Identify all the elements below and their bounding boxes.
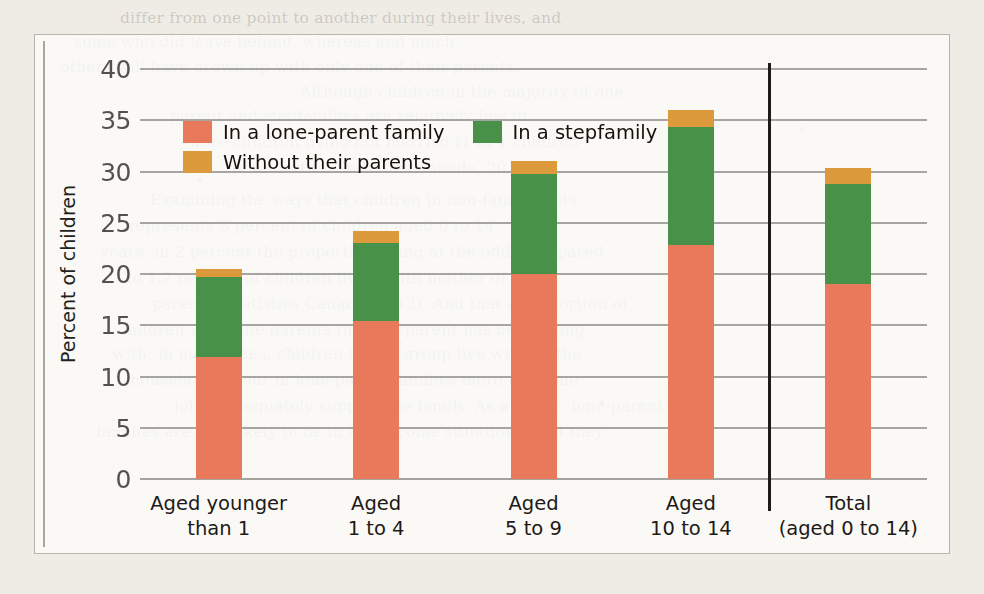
y-axis-tick-label: 35 — [100, 106, 131, 135]
x-axis-category-label: Aged youngerthan 1 — [150, 491, 287, 541]
x-axis-category-label: Aged10 to 14 — [650, 491, 732, 541]
y-axis-tick-label: 40 — [100, 55, 131, 84]
legend-swatch-stepfamily — [473, 121, 502, 143]
bar-segment[interactable] — [353, 231, 399, 243]
total-separator-rule — [768, 63, 771, 511]
bar-segment[interactable] — [825, 184, 871, 284]
legend-swatch-lone-parent — [183, 121, 212, 143]
bar-segment[interactable] — [196, 269, 242, 277]
y-axis-tick-label: 30 — [100, 157, 131, 186]
figure-left-rule — [43, 41, 45, 547]
stacked-bar[interactable] — [196, 269, 242, 479]
y-axis-tick-label: 5 — [116, 413, 131, 442]
legend-label: Without their parents — [223, 151, 431, 174]
x-axis-label-line: Aged — [348, 491, 405, 516]
x-axis-category-label: Total(aged 0 to 14) — [779, 491, 918, 541]
bar-segment[interactable] — [511, 274, 557, 479]
chart-legend: In a lone-parent familyIn a stepfamilyWi… — [183, 117, 685, 177]
x-axis-label-line: 10 to 14 — [650, 516, 732, 541]
x-axis-label-line: Aged — [650, 491, 732, 516]
stacked-bar[interactable] — [511, 161, 557, 479]
y-axis-tick-label: 0 — [116, 465, 131, 494]
bar-segment[interactable] — [668, 245, 714, 479]
bar-slot: Total(aged 0 to 14) — [770, 69, 927, 479]
x-axis-label-line: 1 to 4 — [348, 516, 405, 541]
y-axis-tick-label: 10 — [100, 362, 131, 391]
legend-row: In a lone-parent familyIn a stepfamily — [183, 117, 685, 147]
y-axis-tick-label: 25 — [100, 208, 131, 237]
x-axis-label-line: (aged 0 to 14) — [779, 516, 918, 541]
bar-segment[interactable] — [825, 284, 871, 479]
legend-row: Without their parents — [183, 147, 685, 177]
legend-label: In a stepfamily — [513, 121, 658, 144]
legend-swatch-without-parents — [183, 151, 212, 173]
stacked-bar[interactable] — [825, 168, 871, 479]
x-axis-label-line: Aged younger — [150, 491, 287, 516]
bar-segment[interactable] — [511, 174, 557, 274]
y-axis-tick-label: 20 — [100, 260, 131, 289]
bar-segment[interactable] — [825, 168, 871, 183]
x-axis-label-line: Total — [779, 491, 918, 516]
bar-segment[interactable] — [353, 321, 399, 479]
y-axis-tick-label: 15 — [100, 311, 131, 340]
x-axis-category-label: Aged5 to 9 — [505, 491, 562, 541]
bar-segment[interactable] — [196, 357, 242, 479]
legend-item[interactable]: In a lone-parent family — [183, 121, 445, 144]
x-axis-category-label: Aged1 to 4 — [348, 491, 405, 541]
bar-segment[interactable] — [196, 277, 242, 357]
bleedthrough-line: differ from one point to another during … — [120, 6, 561, 31]
x-axis-label-line: Aged — [505, 491, 562, 516]
y-axis-label: Percent of children — [57, 185, 79, 363]
legend-item[interactable]: Without their parents — [183, 151, 431, 174]
bar-segment[interactable] — [353, 243, 399, 321]
x-axis-label-line: 5 to 9 — [505, 516, 562, 541]
legend-label: In a lone-parent family — [223, 121, 445, 144]
figure-panel: Percent of children 0510152025303540 Age… — [34, 34, 950, 554]
stacked-bar[interactable] — [353, 231, 399, 479]
x-axis-label-line: than 1 — [150, 516, 287, 541]
legend-item[interactable]: In a stepfamily — [473, 121, 658, 144]
